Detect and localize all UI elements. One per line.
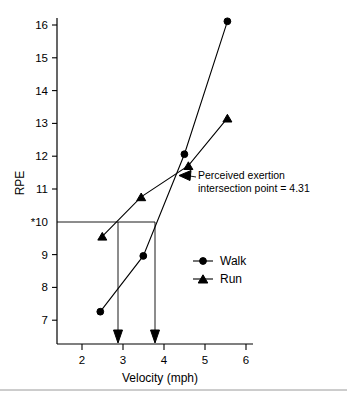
x-tick-label-6: 6	[243, 354, 249, 366]
series-walk-point	[224, 18, 231, 25]
legend-item-run[interactable]: Run	[193, 272, 242, 286]
series-walk-point	[97, 308, 104, 315]
legend-label-walk: Walk	[220, 254, 247, 268]
y-tick-label-11: 11	[36, 183, 48, 195]
y-tick-label-16: 16	[35, 19, 48, 31]
legend-item-walk[interactable]: Walk	[193, 254, 247, 268]
y-tick-label-12: 12	[35, 150, 48, 162]
series-walk-point	[140, 253, 147, 260]
chart-legend: Walk Run	[193, 254, 247, 286]
intersection-annotation: Perceived exertion intersection point = …	[179, 169, 310, 194]
walk-drop-arrowhead	[151, 330, 160, 343]
legend-label-run: Run	[220, 272, 242, 286]
y-tick-label-9: 9	[42, 249, 48, 261]
annotation-line-1: Perceived exertion	[198, 169, 285, 181]
series-walk-line	[100, 21, 227, 311]
series-walk-point	[181, 151, 188, 158]
y-axis-title: RPE	[13, 171, 27, 196]
y-axis	[52, 18, 57, 344]
x-tick-label-2: 2	[79, 354, 85, 366]
legend-walk-marker-icon	[200, 258, 207, 265]
reference-lines	[57, 222, 160, 343]
y-tick-label-8: 8	[42, 281, 48, 293]
series-run-point	[223, 114, 232, 122]
x-axis-title: Velocity (mph)	[122, 371, 198, 385]
series-run-point	[137, 193, 146, 201]
annotation-arrowhead-icon	[179, 171, 191, 181]
y-tick-label-13: 13	[35, 117, 48, 129]
chart-canvas: 16 15 14 13 12 11 *10 9 8 7 2 3 4 5 6 RP…	[0, 0, 347, 394]
y-tick-label-14: 14	[35, 85, 48, 97]
chart-figure: 16 15 14 13 12 11 *10 9 8 7 2 3 4 5 6 RP…	[0, 0, 347, 394]
x-axis	[57, 344, 253, 350]
x-tick-label-3: 3	[120, 354, 126, 366]
series-run-point	[184, 162, 193, 170]
y-tick-label-10: *10	[31, 216, 48, 228]
run-drop-arrowhead	[114, 330, 123, 343]
annotation-line-2: intersection point = 4.31	[198, 182, 310, 194]
y-tick-label-15: 15	[35, 52, 48, 64]
x-tick-label-4: 4	[161, 354, 168, 366]
y-tick-label-7: 7	[42, 314, 48, 326]
series-walk	[97, 18, 231, 315]
x-tick-label-5: 5	[202, 354, 208, 366]
